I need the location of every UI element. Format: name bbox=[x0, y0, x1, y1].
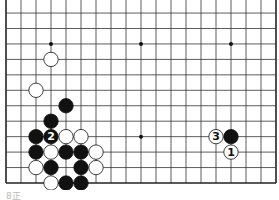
white-stone bbox=[74, 129, 88, 143]
black-stone bbox=[224, 129, 238, 143]
black-stone bbox=[29, 129, 43, 143]
white-stone bbox=[44, 145, 58, 159]
white-stone bbox=[29, 83, 43, 97]
star-point bbox=[139, 42, 143, 46]
move-number: 2 bbox=[47, 130, 55, 143]
black-stone bbox=[29, 145, 43, 159]
black-stone bbox=[74, 176, 88, 190]
black-stone: 2 bbox=[44, 129, 58, 143]
black-stone bbox=[59, 99, 73, 113]
star-point bbox=[49, 42, 53, 46]
diagram-caption: 8正 bbox=[6, 192, 21, 200]
black-stone bbox=[74, 160, 88, 174]
white-stone bbox=[44, 52, 58, 66]
white-stone: 3 bbox=[209, 129, 223, 143]
white-stone: 1 bbox=[224, 145, 238, 159]
black-stone bbox=[59, 145, 73, 159]
black-stone bbox=[44, 160, 58, 174]
black-stone bbox=[74, 145, 88, 159]
black-stone bbox=[44, 114, 58, 128]
white-stone bbox=[44, 176, 58, 190]
move-number: 3 bbox=[212, 130, 220, 143]
white-stone bbox=[89, 160, 103, 174]
white-stone bbox=[59, 129, 73, 143]
go-board: 231 bbox=[0, 0, 279, 190]
black-stone bbox=[59, 176, 73, 190]
white-stone bbox=[89, 145, 103, 159]
move-number: 1 bbox=[227, 146, 235, 159]
star-point bbox=[139, 135, 143, 139]
white-stone bbox=[29, 160, 43, 174]
star-point bbox=[229, 42, 233, 46]
